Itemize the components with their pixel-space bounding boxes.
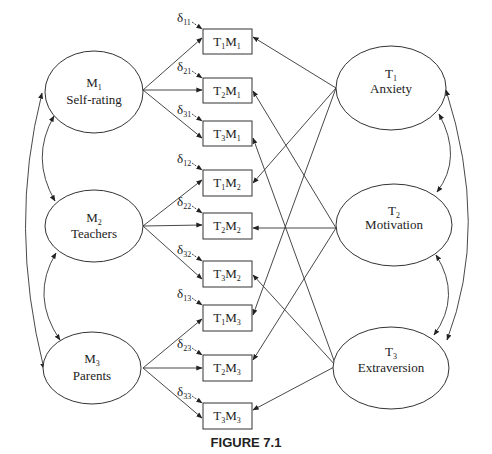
error-arrow-22 — [192, 206, 202, 213]
error-arrow-23 — [192, 348, 202, 355]
error-arrow-21 — [192, 71, 202, 78]
error-label: δ22 — [177, 194, 191, 211]
error-subscript: 31 — [183, 110, 191, 119]
indicator-method-letter: M — [225, 34, 237, 49]
indicator-method-letter: M — [225, 310, 237, 325]
svg-text:T2M1: T2M1 — [213, 83, 241, 100]
indicator-method-letter: M — [225, 360, 237, 375]
indicator-method-subscript: 2 — [237, 183, 241, 192]
method-factor-m2[interactable]: M2 Teachers — [45, 190, 143, 262]
edge-t3-t3m2 — [253, 275, 336, 366]
edge-m2-t2m2 — [143, 225, 202, 226]
error-label: δ13 — [177, 286, 191, 303]
indicator-t3m1[interactable]: T3M1 δ31 — [177, 102, 252, 146]
trait-name: Anxiety — [370, 81, 412, 96]
error-subscript: 22 — [183, 202, 191, 211]
error-arrow-11 — [192, 22, 202, 29]
indicator-method-letter: M — [225, 83, 237, 98]
error-subscript: 12 — [183, 159, 191, 168]
edge-m3-t3m3 — [143, 368, 202, 418]
svg-text:T1M3: T1M3 — [213, 310, 241, 327]
indicator-trait-letter: T — [213, 34, 221, 49]
indicator-method-subscript: 1 — [237, 91, 241, 100]
error-arrow-31 — [192, 114, 202, 121]
error-arrow-12 — [192, 163, 202, 170]
indicator-method-subscript: 2 — [237, 226, 241, 235]
error-arrows — [192, 22, 202, 403]
indicator-t2m3[interactable]: T2M3 δ23 — [177, 336, 252, 381]
edge-t2-t2m1 — [253, 91, 336, 228]
indicator-trait-letter: T — [213, 408, 221, 423]
edge-m2-t3m2 — [143, 226, 202, 279]
error-label: δ11 — [177, 10, 191, 27]
trait-factor-t2[interactable]: T2 Motivation — [336, 184, 452, 266]
edge-m1-t3m1 — [143, 90, 202, 138]
svg-text:T2M2: T2M2 — [213, 218, 241, 235]
indicator-method-subscript: 1 — [237, 134, 241, 143]
error-label: δ23 — [177, 336, 191, 353]
edge-t3-t3m3 — [253, 366, 336, 410]
error-arrow-32 — [192, 254, 202, 261]
error-label: δ33 — [177, 384, 191, 401]
method-name: Teachers — [71, 226, 117, 241]
error-label: δ12 — [177, 151, 191, 168]
trait-symbol: T — [385, 66, 393, 81]
error-subscript: 13 — [183, 294, 191, 303]
edge-t1-t1m1 — [253, 37, 336, 88]
error-subscript: 21 — [183, 67, 191, 76]
indicator-method-letter: M — [225, 126, 237, 141]
edge-t1-t1m2 — [253, 88, 336, 183]
covariance-t1-t2 — [437, 114, 451, 192]
indicator-trait-letter: T — [213, 83, 221, 98]
covariance-t2-t3 — [434, 255, 449, 335]
method-factor-m1[interactable]: M1 Self-rating — [45, 51, 143, 133]
indicator-t1m3[interactable]: T1M3 δ13 — [177, 286, 252, 331]
error-subscript: 33 — [183, 392, 191, 401]
indicator-method-letter: M — [225, 218, 237, 233]
indicator-t3m2[interactable]: T3M2 δ32 — [177, 242, 252, 287]
indicator-method-subscript: 3 — [237, 368, 241, 377]
method-name: Self-rating — [66, 92, 122, 107]
method-symbol: M — [84, 351, 96, 366]
indicator-t1m2[interactable]: T1M2 δ12 — [177, 151, 252, 196]
method-symbol: M — [86, 75, 98, 90]
method-subscript: 3 — [96, 359, 100, 368]
trait-factor-t3[interactable]: T3 Extraversion — [333, 327, 449, 409]
edge-m3-t1m3 — [143, 319, 202, 368]
indicator-trait-letter: T — [213, 175, 221, 190]
method-subscript: 1 — [98, 83, 102, 92]
indicator-trait-letter: T — [213, 126, 221, 141]
trait-name: Motivation — [365, 217, 423, 232]
indicator-t2m2[interactable]: T2M2 δ22 — [177, 194, 252, 239]
error-subscript: 11 — [183, 18, 191, 27]
indicator-t1m1[interactable]: T1M1 δ11 — [177, 10, 252, 54]
edge-t1-t1m3 — [253, 88, 336, 315]
svg-text:T2M3: T2M3 — [213, 360, 241, 377]
edge-m1-t1m1 — [143, 38, 202, 90]
indicator-method-subscript: 2 — [237, 274, 241, 283]
trait-factor-t1[interactable]: T1 Anxiety — [336, 46, 446, 130]
indicator-boxes: T1M1 δ11 T2M1 δ21 T3M1 δ31 T1M2 δ12 T2M2… — [177, 10, 252, 429]
indicator-method-letter: M — [225, 175, 237, 190]
error-label: δ31 — [177, 102, 191, 119]
error-arrow-33 — [192, 396, 202, 403]
indicator-trait-letter: T — [213, 266, 221, 281]
method-loading-edges — [143, 38, 202, 418]
method-name: Parents — [73, 368, 111, 383]
indicator-trait-letter: T — [213, 310, 221, 325]
svg-text:T1M2: T1M2 — [213, 175, 241, 192]
indicator-method-subscript: 3 — [237, 416, 241, 425]
svg-text:T3M2: T3M2 — [213, 266, 241, 283]
edge-t3-t3m1 — [253, 138, 336, 366]
trait-symbol: T — [385, 344, 393, 359]
indicator-t2m1[interactable]: T2M1 δ21 — [177, 59, 252, 103]
mtmm-path-diagram: M1 Self-rating M2 Teachers M3 Parents T1… — [0, 0, 492, 454]
error-arrow-13 — [192, 298, 202, 305]
method-factor-m3[interactable]: M3 Parents — [43, 332, 141, 404]
covariance-m2-m3 — [44, 253, 60, 340]
error-subscript: 32 — [183, 250, 191, 259]
trait-symbol: T — [388, 203, 396, 218]
edge-t2-t2m3 — [253, 228, 336, 360]
covariance-m1-m2 — [42, 116, 55, 201]
covariance-m1-m3 — [25, 93, 44, 369]
